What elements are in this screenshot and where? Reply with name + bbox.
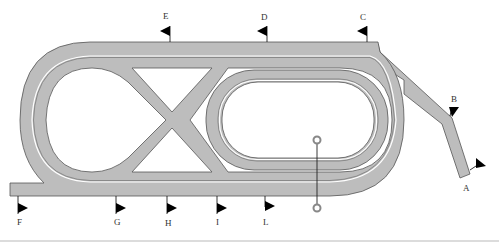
marker-label-L: L bbox=[263, 217, 269, 227]
flag-icon bbox=[18, 203, 28, 213]
marker-label-F: F bbox=[17, 217, 22, 227]
marker-label-D: D bbox=[261, 12, 268, 22]
marker-label-C: C bbox=[360, 12, 366, 22]
flag-icon bbox=[265, 201, 275, 211]
marker-F: F bbox=[17, 196, 28, 227]
flag-icon bbox=[257, 26, 267, 36]
marker-E: E bbox=[160, 11, 170, 42]
flag-icon bbox=[167, 203, 177, 213]
marker-I: I bbox=[216, 196, 227, 227]
finish-post-bottom-ring bbox=[314, 205, 321, 212]
marker-G: G bbox=[114, 196, 126, 227]
flag-icon bbox=[217, 203, 227, 213]
finish-post-top-ring bbox=[314, 137, 321, 144]
marker-C: C bbox=[357, 12, 367, 42]
marker-label-G: G bbox=[114, 217, 121, 227]
marker-B: B bbox=[449, 94, 459, 117]
marker-label-H: H bbox=[165, 218, 172, 228]
bottom-divider bbox=[0, 240, 499, 242]
marker-label-E: E bbox=[163, 11, 169, 21]
inner-oval bbox=[206, 70, 388, 170]
marker-H: H bbox=[165, 196, 177, 228]
marker-label-B: B bbox=[451, 94, 457, 104]
flag-icon bbox=[357, 26, 367, 36]
flag-icon bbox=[116, 203, 126, 213]
marker-L: L bbox=[263, 196, 275, 227]
racecourse-diagram: E D C B A F G H I L bbox=[0, 0, 499, 246]
flag-icon bbox=[476, 158, 486, 168]
marker-label-A: A bbox=[463, 183, 470, 193]
flag-icon bbox=[160, 26, 170, 36]
marker-D: D bbox=[257, 12, 268, 42]
marker-label-I: I bbox=[216, 217, 219, 227]
